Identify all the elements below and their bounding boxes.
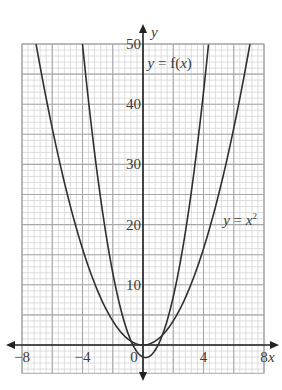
x-tick-label: −8 [14, 349, 30, 365]
y-tick-label: 10 [126, 277, 141, 293]
arrow-up-icon [139, 24, 147, 33]
y-tick-label: 30 [126, 156, 141, 172]
curve-label-f-of-x: y = f(x) [146, 55, 192, 72]
curve-label-x-squared: y = x2 [221, 211, 257, 228]
graph: x y −8−4048 1020304050 y = f(x) y = x2 [0, 0, 282, 390]
x-tick-label: −4 [75, 349, 91, 365]
axes [6, 24, 279, 381]
x-tick-label: 8 [260, 349, 268, 365]
arrow-down-icon [139, 372, 147, 381]
arrow-left-icon [6, 341, 15, 349]
y-tick-label: 50 [126, 36, 141, 52]
x-tick-label: 4 [200, 349, 208, 365]
y-tick-label: 20 [126, 217, 141, 233]
arrow-right-icon [270, 341, 279, 349]
x-tick-label: 0 [130, 349, 138, 365]
y-axis-label: y [149, 24, 158, 40]
x-axis-label: x [267, 349, 275, 365]
y-tick-label: 40 [126, 96, 141, 112]
